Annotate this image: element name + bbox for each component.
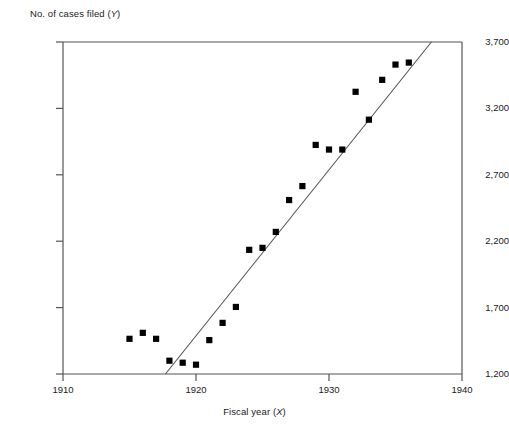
x-axis-title: Fiscal year (X) <box>0 406 509 417</box>
data-point-marker <box>233 304 239 310</box>
data-point-marker <box>299 183 305 189</box>
data-point-marker <box>140 330 146 336</box>
y-axis-ticks <box>56 42 63 374</box>
axis-lines <box>63 42 462 374</box>
trend-line <box>165 42 431 374</box>
plot-area <box>0 0 509 442</box>
data-point-marker <box>166 358 172 364</box>
x-tick-label-1910: 1910 <box>38 385 88 395</box>
y-tick-label-2200: 2,200 <box>463 236 509 246</box>
data-point-marker <box>259 245 265 251</box>
x-tick-label-1920: 1920 <box>171 385 221 395</box>
data-point-marker <box>353 89 359 95</box>
data-point-marker <box>273 229 279 235</box>
data-point-marker <box>286 197 292 203</box>
data-point-marker <box>246 247 252 253</box>
data-point-marker <box>379 77 385 83</box>
y-tick-label-1200: 1,200 <box>463 369 509 379</box>
trend-line-segment <box>165 42 431 374</box>
data-point-marker <box>339 146 345 152</box>
x-tick-label-1930: 1930 <box>304 385 354 395</box>
data-point-marker <box>313 142 319 148</box>
y-axis-title: No. of cases filed (Y) <box>30 8 120 19</box>
data-point-marker <box>406 59 412 65</box>
data-points <box>126 59 412 367</box>
y-tick-label-3200: 3,200 <box>463 103 509 113</box>
data-point-marker <box>193 362 199 368</box>
data-point-marker <box>180 360 186 366</box>
x-axis-title-text: Fiscal year (X) <box>223 406 286 417</box>
data-point-marker <box>366 117 372 123</box>
y-tick-label-3700: 3,700 <box>463 37 509 47</box>
y-tick-label-1700: 1,700 <box>463 303 509 313</box>
y-axis-title-text: No. of cases filed (Y) <box>30 8 120 19</box>
data-point-marker <box>153 336 159 342</box>
x-tick-label-1940: 1940 <box>437 385 487 395</box>
data-point-marker <box>392 61 398 67</box>
data-point-marker <box>220 320 226 326</box>
chart-figure: No. of cases filed (Y) Fiscal year (X) 3… <box>0 0 509 442</box>
y-tick-label-2700: 2,700 <box>463 170 509 180</box>
x-axis-ticks <box>63 374 462 381</box>
data-point-marker <box>206 337 212 343</box>
data-point-marker <box>126 336 132 342</box>
data-point-marker <box>326 146 332 152</box>
